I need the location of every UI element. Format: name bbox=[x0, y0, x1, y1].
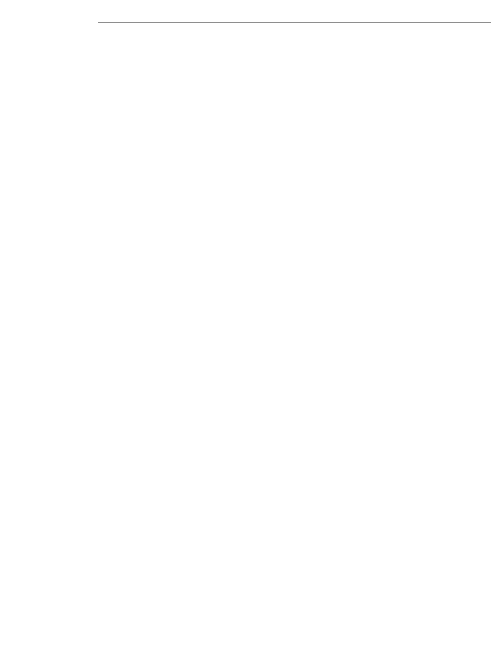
chart-bottom bbox=[0, 372, 491, 650]
x-axis-line bbox=[98, 22, 491, 23]
x-axis-top bbox=[98, 22, 491, 56]
chart-top bbox=[0, 22, 491, 367]
figure-page bbox=[0, 0, 491, 650]
